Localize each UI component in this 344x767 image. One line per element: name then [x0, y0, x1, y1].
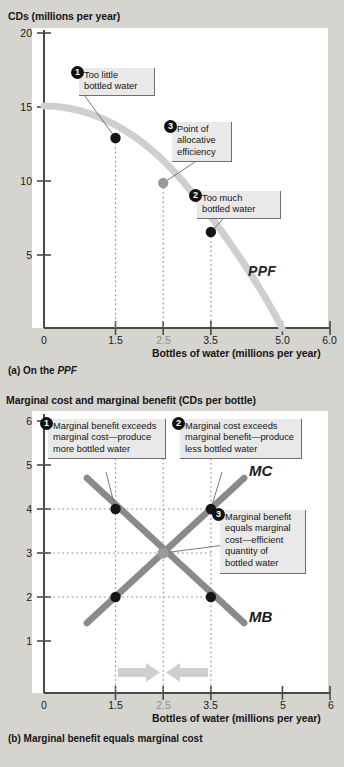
- callout-line: more bottled water: [53, 444, 161, 455]
- mb-point-at-1-5[interactable]: [110, 504, 120, 514]
- callout-line: less bottled water: [185, 444, 297, 455]
- callout-line: marginal benefit—produce: [185, 432, 297, 443]
- callout-line: Marginal benefit: [225, 512, 301, 523]
- panel-b-chart: [0, 0, 344, 767]
- callout-mc-exceeds-mb: Marginal cost exceeds marginal benefit—p…: [180, 419, 302, 459]
- callout-badge-2-panel-a[interactable]: 2: [189, 189, 202, 202]
- mc-curve-label: MC: [249, 462, 272, 479]
- panel-b-vertical-droplines: [116, 440, 211, 693]
- panel-b-caption: (b) Marginal benefit equals marginal cos…: [8, 733, 202, 744]
- panel-b-x-axis-title: Bottles of water (millions per year): [152, 712, 321, 724]
- panel-b-ytick-6: 6: [6, 415, 32, 427]
- callout-badge-3-panel-a[interactable]: 3: [164, 120, 177, 133]
- arrow-right-toward-efficient: [118, 663, 160, 682]
- callout-line: Marginal benefit exceeds: [53, 421, 161, 432]
- figure-container: CDs (millions per year): [0, 0, 344, 767]
- panel-b-ytick-3: 3: [6, 547, 32, 559]
- mb-point-at-3-5[interactable]: [206, 592, 216, 602]
- arrow-left-toward-efficient: [166, 663, 208, 682]
- callout-badge-3-panel-b[interactable]: 3: [212, 508, 225, 521]
- panel-b-xtick-6: 6: [322, 699, 340, 711]
- callout-line: bottled water: [225, 558, 301, 569]
- callout-badge-1-panel-b[interactable]: 1: [40, 417, 53, 430]
- callout-line: Marginal cost exceeds: [185, 421, 297, 432]
- panel-b-ytick-1: 1: [6, 635, 32, 647]
- callout-line: quantity of: [225, 546, 301, 557]
- mb-curve-label: MB: [249, 608, 272, 625]
- panel-b-ytick-2: 2: [6, 591, 32, 603]
- panel-b-xtick-1-5: 1.5: [104, 699, 127, 711]
- callout-mb-exceeds-mc: Marginal benefit exceeds marginal cost—p…: [48, 419, 166, 459]
- callout-line: cost—efficient: [225, 535, 301, 546]
- callout-badge-2-panel-b[interactable]: 2: [172, 417, 185, 430]
- mb-mc-intersection-point[interactable]: [158, 547, 169, 558]
- panel-b-xtick-2-5: 2.5: [152, 699, 175, 711]
- callout-mb-equals-mc: Marginal benefit equals marginal cost—ef…: [220, 510, 306, 574]
- panel-b-xtick-5: 5: [274, 699, 292, 711]
- callout-line: equals marginal: [225, 523, 301, 534]
- panel-b-ytick-4: 4: [6, 503, 32, 515]
- callout-line: marginal cost—produce: [53, 432, 161, 443]
- mc-point-at-1-5[interactable]: [110, 592, 120, 602]
- panel-b-xtick-3-5: 3.5: [199, 699, 222, 711]
- panel-b-ytick-5: 5: [6, 459, 32, 471]
- panel-b-xtick-0: 0: [35, 699, 53, 711]
- callout-badge-1-panel-a[interactable]: 1: [71, 66, 84, 79]
